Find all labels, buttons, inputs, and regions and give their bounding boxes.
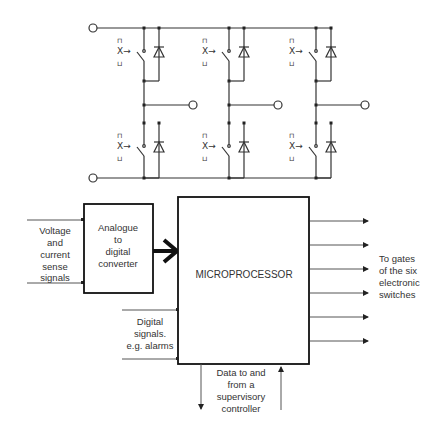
lower-switch-node-diode-top (330, 122, 333, 125)
upper-switch-switch-blade (137, 52, 144, 61)
digital-input-junction-1 (176, 308, 179, 311)
supervisory-label-line: controller (221, 403, 260, 414)
supervisory-label-line: from a (228, 379, 256, 390)
lower-switch-gate-arrow-icon: X→ (202, 141, 216, 151)
upper-switch-gate-arrow-icon: X→ (202, 46, 216, 56)
dc-negative-terminal (89, 174, 97, 182)
gates-label-line: electronic (379, 277, 420, 288)
lower-switch-gate-bottom-icon: ⊔ (289, 155, 294, 163)
lower-switch-gate-arrow-icon: X→ (289, 141, 303, 151)
lower-switch-node-top (228, 122, 231, 125)
lower-switch-node-bottom (228, 177, 231, 180)
lower-switch-gate-arrow-icon: X→ (117, 141, 131, 151)
digital-label-line: e.g. alarms (127, 340, 174, 351)
phase-node (228, 104, 231, 107)
adc-label-line: converter (98, 258, 138, 269)
lower-switch-gate-top-icon: ⊓ (289, 132, 294, 140)
supervisory-label-line: Data to and (216, 367, 265, 378)
microprocessor-label: MICROPROCESSOR (195, 269, 292, 280)
digital-input-junction-2 (176, 357, 179, 360)
upper-switch-contact (228, 50, 231, 53)
lower-switch-switch-blade (309, 147, 316, 156)
supervisory-link: Data to and from a supervisory controlle… (201, 364, 281, 414)
upper-switch-gate-bottom-icon: ⊔ (289, 60, 294, 68)
upper-switch-switch-blade (222, 52, 229, 61)
gates-label: To gates of the six electronic switches (379, 253, 420, 300)
inverter-bridge: ⊓X→⊔⊓X→⊔⊓X→⊔⊓X→⊔⊓X→⊔⊓X→⊔ (89, 24, 369, 182)
upper-switch-node-top (228, 27, 231, 30)
digital-inputs: Digital signals. e.g. alarms (122, 308, 179, 360)
lower-switch-gate-bottom-icon: ⊔ (117, 155, 122, 163)
sense-label-line: Voltage (39, 225, 71, 236)
phase-node (315, 104, 318, 107)
supervisory-label-line: supervisory (217, 391, 266, 402)
digital-label-line: signals. (134, 328, 166, 339)
phase-output-terminal (274, 101, 282, 109)
leg-1: ⊓X→⊔⊓X→⊔ (117, 27, 197, 180)
phase-output-terminal (361, 101, 369, 109)
lower-switch-node-bottom (315, 177, 318, 180)
lower-switch-gate-top-icon: ⊓ (117, 132, 122, 140)
lower-switch-switch-blade (222, 147, 229, 156)
gates-label-line: To gates (379, 253, 415, 264)
gates-label-line: of the six (379, 265, 417, 276)
lower-switch-gate-bottom-icon: ⊔ (202, 155, 207, 163)
adc-label-line: to (114, 234, 122, 245)
digital-label-line: Digital (137, 316, 163, 327)
sense-label-line: signals (40, 272, 70, 283)
lower-switch-contact (143, 145, 146, 148)
upper-switch-gate-top-icon: ⊓ (202, 37, 207, 45)
adc-label-line: Analogue (98, 222, 138, 233)
upper-switch-node-diode-top (243, 27, 246, 30)
microprocessor-block: MICROPROCESSOR (178, 197, 309, 364)
phase-node (143, 104, 146, 107)
upper-switch-gate-bottom-icon: ⊔ (202, 60, 207, 68)
upper-switch-gate-bottom-icon: ⊔ (117, 60, 122, 68)
sense-label-line: current (40, 249, 70, 260)
upper-switch-switch-blade (309, 52, 316, 61)
adc-label-line: digital (106, 246, 131, 257)
upper-switch-gate-arrow-icon: X→ (117, 46, 131, 56)
gates-label-line: switches (379, 289, 416, 300)
gate-outputs (310, 221, 368, 341)
leg-2: ⊓X→⊔⊓X→⊔ (202, 27, 282, 180)
upper-switch-gate-top-icon: ⊓ (117, 37, 122, 45)
lower-switch-node-top (143, 122, 146, 125)
sense-inputs: Voltage and current sense signals (27, 218, 84, 284)
lower-switch-gate-top-icon: ⊓ (202, 132, 207, 140)
dc-positive-terminal (89, 24, 97, 32)
lower-switch-node-diode-top (158, 122, 161, 125)
phase-output-terminal (189, 101, 197, 109)
upper-switch-node-top (143, 27, 146, 30)
lower-switch-node-top (315, 122, 318, 125)
upper-switch-node-diode-top (330, 27, 333, 30)
inverter-control-diagram: ⊓X→⊔⊓X→⊔⊓X→⊔⊓X→⊔⊓X→⊔⊓X→⊔ Voltage and cur… (0, 0, 442, 429)
leg-3: ⊓X→⊔⊓X→⊔ (289, 27, 369, 180)
adc-to-microprocessor-arrow (153, 240, 177, 262)
sense-label-line: and (47, 237, 63, 248)
upper-switch-contact (315, 50, 318, 53)
sense-label-line: sense (42, 261, 67, 272)
upper-switch-node-diode-top (158, 27, 161, 30)
microprocessor-box (178, 197, 309, 364)
upper-switch-node-top (315, 27, 318, 30)
lower-switch-switch-blade (137, 147, 144, 156)
lower-switch-node-diode-top (243, 122, 246, 125)
upper-switch-contact (143, 50, 146, 53)
lower-switch-contact (228, 145, 231, 148)
lower-switch-node-bottom (143, 177, 146, 180)
upper-switch-gate-arrow-icon: X→ (289, 46, 303, 56)
lower-switch-contact (315, 145, 318, 148)
upper-switch-gate-top-icon: ⊓ (289, 37, 294, 45)
adc-block: Analogue to digital converter (84, 204, 153, 293)
